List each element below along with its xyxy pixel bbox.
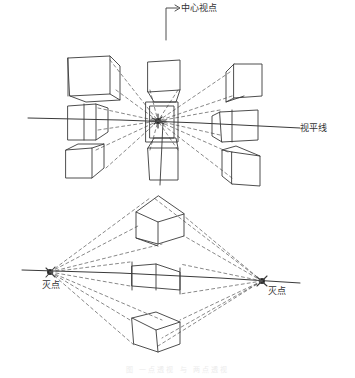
right-vanishing-point-label: 灭点 bbox=[268, 284, 286, 297]
figure-caption: 图 一点透视 与 两点透视 bbox=[0, 364, 355, 374]
center-view-pointer bbox=[160, 5, 180, 185]
cube-top-center bbox=[148, 60, 180, 102]
horizon-line-top bbox=[28, 118, 300, 128]
cube-mid-left bbox=[68, 104, 108, 140]
horizon-line-label: 视平线 bbox=[300, 121, 327, 134]
center-viewpoint-label: 中心视点 bbox=[181, 1, 217, 14]
cube-bottom-center bbox=[148, 138, 178, 180]
cube-top-left bbox=[68, 56, 120, 102]
cube-two-point-middle bbox=[132, 262, 180, 294]
perspective-sketch bbox=[0, 0, 355, 378]
left-vanishing-point-label: 灭点 bbox=[42, 278, 60, 291]
cube-two-point-top bbox=[136, 196, 184, 246]
horizon-line-bottom bbox=[22, 270, 300, 283]
